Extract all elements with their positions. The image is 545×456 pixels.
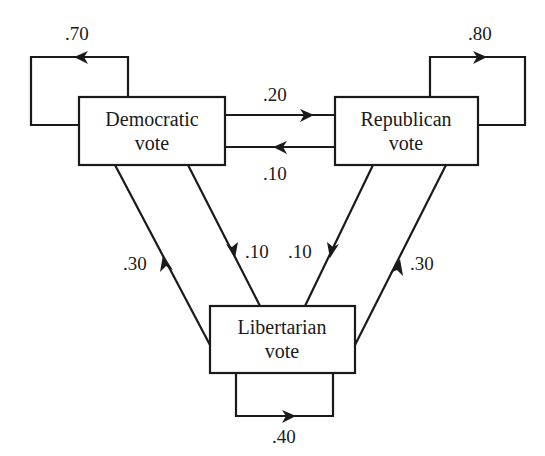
probability-label: .70	[65, 23, 89, 44]
node-label-line2: vote	[135, 132, 170, 154]
probability-label: .40	[272, 426, 296, 447]
edge-lib-to-rep: .30	[355, 165, 446, 345]
node-label-line2: vote	[389, 132, 424, 154]
edge-rep-to-lib: .10	[288, 165, 373, 306]
edge-dem-to-rep: .20	[225, 84, 335, 122]
edge-rep-to-dem: .10	[225, 141, 335, 184]
node-label-line2: vote	[265, 340, 300, 362]
edge-dem-to-lib: .10	[188, 165, 269, 306]
node-republican-vote: Republican vote	[335, 97, 478, 165]
probability-label: .30	[410, 253, 434, 274]
node-label-line1: Libertarian	[238, 316, 327, 338]
probability-label: .20	[263, 84, 287, 105]
self-loop-line	[236, 373, 333, 416]
voting-transition-diagram: .70 .80 .20 .10 .30 .10 .10 .30	[0, 0, 545, 456]
probability-label: .10	[245, 241, 269, 262]
edge-lib-to-dem: .30	[115, 165, 210, 345]
node-libertarian-vote: Libertarian vote	[210, 306, 355, 373]
probability-label: .80	[468, 23, 492, 44]
edge-line	[305, 165, 373, 306]
probability-label: .30	[123, 253, 147, 274]
probability-label: .10	[288, 241, 312, 262]
probability-label: .10	[263, 163, 287, 184]
edge-line	[188, 165, 260, 306]
node-democratic-vote: Democratic vote	[79, 97, 225, 165]
edge-lib-to-lib: .40	[236, 373, 333, 447]
node-label-line1: Republican	[360, 108, 451, 131]
node-label-line1: Democratic	[105, 108, 198, 130]
